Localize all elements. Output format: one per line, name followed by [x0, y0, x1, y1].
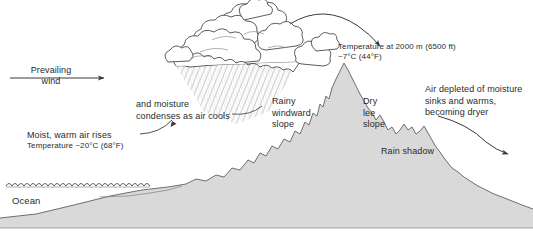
label-summit-temperature-value: ~7°C (44°F): [338, 52, 382, 63]
label-air-depleted-of-moisture: Air depleted of moisture sinks and warms…: [425, 84, 522, 119]
label-moisture-condenses: and moisture condenses as air cools: [136, 99, 230, 122]
cloud-icon: [165, 0, 340, 72]
label-rain-shadow: Rain shadow: [381, 146, 434, 158]
diagram-canvas: [0, 0, 533, 245]
orographic-precipitation-diagram: Prevailing wind and moisture condenses a…: [0, 0, 533, 245]
leader-line-icon: [140, 120, 172, 134]
label-prevailing-wind: Prevailing wind: [18, 65, 84, 87]
label-sea-level-temperature: Temperature ~20°C (68°F): [27, 141, 124, 152]
label-ocean: Ocean: [12, 196, 41, 207]
label-moist-warm-air-rises: Moist, warm air rises: [27, 130, 112, 142]
descending-curved-arrow-icon: [438, 116, 508, 154]
label-rainy-windward-slope: Rainy windward slope: [272, 96, 311, 131]
label-dry-lee-slope: Dry lee slope: [363, 96, 385, 131]
label-summit-temperature-elevation: Temperature at 2000 m (6500 ft): [338, 42, 456, 53]
ocean-waves-icon: [6, 184, 150, 188]
